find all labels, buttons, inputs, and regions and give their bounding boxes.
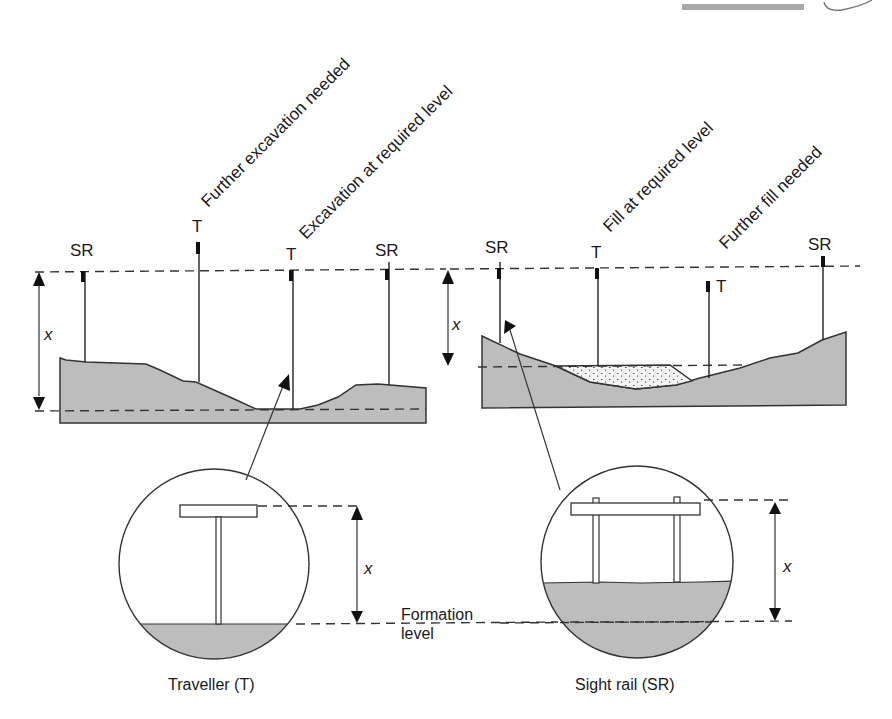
fill-profile: x SR T T SR Fill at required level Furth… bbox=[442, 118, 860, 490]
traveller-caption: Traveller (T) bbox=[168, 676, 255, 693]
traveller-further-pole-fill: T bbox=[706, 277, 726, 378]
traveller-required-pole-fill: T bbox=[591, 243, 601, 365]
x-dimension-left: x bbox=[33, 272, 53, 410]
svg-text:SR: SR bbox=[375, 241, 399, 260]
formation-level-label-1: Formation bbox=[401, 606, 473, 623]
excavation-required-label: Excavation at required level bbox=[295, 82, 456, 243]
traveller-detail: x Traveller (T) bbox=[110, 469, 558, 693]
sight-line-right bbox=[450, 266, 860, 269]
sight-rail-right-pole: SR bbox=[375, 241, 399, 385]
traveller-stem bbox=[216, 517, 221, 624]
sight-rail-caption: Sight rail (SR) bbox=[575, 676, 675, 693]
traveller-further-pole: T bbox=[192, 217, 202, 382]
sight-rail-detail: x Sight rail (SR) bbox=[500, 466, 794, 693]
page-decoration bbox=[682, 0, 872, 10]
excavation-ground bbox=[60, 358, 426, 423]
svg-text:x: x bbox=[782, 557, 792, 576]
formation-level-label-2: level bbox=[401, 625, 434, 642]
excavation-profile: x SR T T SR Further excavation needed Ex… bbox=[33, 54, 457, 480]
x-label: x bbox=[43, 325, 53, 344]
svg-text:SR: SR bbox=[70, 241, 94, 260]
pointer-to-traveller bbox=[246, 381, 285, 480]
sight-line bbox=[35, 269, 446, 272]
pointer-to-sight-rail bbox=[510, 330, 560, 490]
svg-text:x: x bbox=[451, 315, 461, 334]
sight-rail-right-pole-fill: SR bbox=[808, 235, 832, 340]
traveller-sight-rail-diagram: x SR T T SR Further excavation needed Ex… bbox=[0, 0, 892, 719]
traveller-crossbar bbox=[180, 505, 257, 517]
sight-rail-board bbox=[571, 503, 700, 515]
fill-required-label: Fill at required level bbox=[599, 118, 717, 236]
x-dimension-right: x bbox=[442, 270, 461, 366]
svg-text:T: T bbox=[192, 217, 202, 236]
svg-text:SR: SR bbox=[485, 238, 509, 257]
svg-text:T: T bbox=[591, 243, 601, 262]
svg-text:x: x bbox=[363, 559, 373, 578]
svg-text:T: T bbox=[286, 245, 296, 264]
svg-text:T: T bbox=[716, 277, 726, 296]
further-excavation-label: Further excavation needed bbox=[197, 54, 353, 210]
sight-rail-left-pole: SR bbox=[70, 241, 94, 362]
svg-text:SR: SR bbox=[808, 235, 832, 254]
